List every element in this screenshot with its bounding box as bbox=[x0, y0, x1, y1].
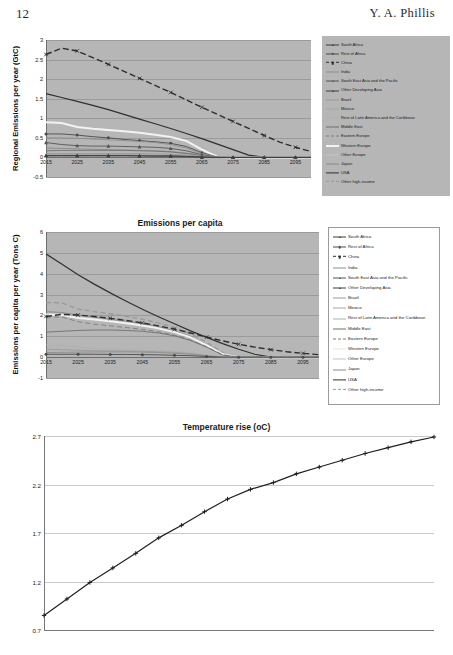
plot-area-regional-emissions: 32.521.510.50-0.520152025203520452055206… bbox=[46, 40, 311, 177]
legend-label: Brazil bbox=[348, 296, 359, 300]
legend-item[interactable]: Other high-income bbox=[333, 385, 436, 395]
legend-item[interactable]: Rest of Latin America and the Caribbean bbox=[326, 114, 447, 123]
legend-item[interactable]: Mexico bbox=[326, 104, 447, 113]
legend-item[interactable]: Other Europe bbox=[333, 354, 436, 364]
y-axis-tick-label: 2 bbox=[40, 312, 43, 318]
legend-line bbox=[333, 328, 346, 329]
legend-swatch bbox=[333, 356, 346, 362]
legend-regional-emissions: South AfricaRest of AfricaChinaIndiaSout… bbox=[322, 36, 450, 196]
legend-item[interactable]: Western Europe bbox=[326, 141, 447, 150]
legend-swatch bbox=[326, 133, 339, 139]
legend-marker bbox=[332, 80, 334, 82]
legend-line bbox=[333, 338, 346, 339]
series-layer bbox=[46, 232, 319, 378]
data-point-marker bbox=[386, 445, 390, 449]
legend-swatch bbox=[333, 275, 346, 281]
data-point-marker bbox=[45, 132, 48, 135]
legend-item[interactable]: Eastern Europe bbox=[333, 334, 436, 344]
legend-line bbox=[326, 181, 339, 183]
legend-swatch bbox=[326, 60, 339, 66]
legend-swatch bbox=[326, 124, 339, 130]
legend-label: Rest of Latin America and the Caribbean bbox=[341, 116, 415, 120]
legend-marker bbox=[331, 62, 334, 65]
legend-item[interactable]: Rest of Africa bbox=[333, 242, 436, 252]
y-axis-tick-label: 2.2 bbox=[32, 481, 41, 488]
data-point-marker bbox=[269, 356, 272, 359]
legend-marker bbox=[339, 236, 341, 238]
legend-item[interactable]: Other Developing Asia bbox=[333, 283, 436, 293]
legend-swatch bbox=[333, 326, 346, 332]
legend-swatch bbox=[333, 367, 346, 373]
legend-item[interactable]: South East Asia and the Pacific bbox=[333, 273, 436, 283]
legend-item[interactable]: China bbox=[333, 252, 436, 262]
legend-item[interactable]: Mexico bbox=[333, 303, 436, 313]
y-axis-tick-label: 1 bbox=[40, 333, 43, 339]
legend-label: Eastern Europe bbox=[348, 337, 378, 341]
legend-item[interactable]: Other Developing Asia bbox=[326, 86, 447, 95]
figure-regional-emissions: Regional Emissions per year (GtC) 32.521… bbox=[0, 32, 453, 217]
legend-line bbox=[333, 267, 346, 268]
legend-item[interactable]: Rest of Africa bbox=[326, 49, 447, 58]
legend-item[interactable]: Other Europe bbox=[326, 150, 447, 159]
legend-marker bbox=[339, 277, 341, 279]
legend-item[interactable]: Middle East bbox=[326, 123, 447, 132]
data-point-marker bbox=[432, 435, 436, 439]
legend-item[interactable]: Brazil bbox=[333, 293, 436, 303]
legend-line bbox=[333, 348, 346, 350]
data-point-marker bbox=[173, 354, 176, 357]
data-point-marker bbox=[248, 487, 252, 491]
y-axis-tick-label: 1.2 bbox=[32, 578, 41, 585]
legend-label: Other Developing Asia bbox=[341, 88, 382, 92]
legend-line bbox=[326, 99, 339, 100]
legend-line bbox=[326, 108, 339, 109]
legend-item[interactable]: South Africa bbox=[326, 40, 447, 49]
running-head-author: Y. A. Phillis bbox=[370, 6, 435, 21]
legend-item[interactable]: Rest of Latin America and the Caribbean bbox=[333, 314, 436, 324]
legend-item[interactable]: South East Asia and the Pacific bbox=[326, 77, 447, 86]
legend-item[interactable]: South Africa bbox=[333, 232, 436, 242]
legend-item[interactable]: India bbox=[333, 263, 436, 273]
plot-area-emissions-per-capita: 6543210-12015202520352045205520652075208… bbox=[46, 232, 319, 378]
legend-swatch bbox=[333, 316, 346, 322]
legend-item[interactable]: Eastern Europe bbox=[326, 132, 447, 141]
y-axis-tick-label: 6 bbox=[40, 229, 43, 235]
chart-title-temperature-rise: Temperature rise (oC) bbox=[0, 422, 453, 432]
legend-label: Mexico bbox=[348, 306, 362, 310]
legend-item[interactable]: China bbox=[326, 58, 447, 67]
data-point-marker bbox=[225, 497, 229, 501]
legend-item[interactable]: India bbox=[326, 68, 447, 77]
legend-item[interactable]: Other high-income bbox=[326, 178, 447, 187]
y-axis-tick-label: 1 bbox=[40, 115, 43, 121]
legend-line bbox=[326, 173, 339, 174]
legend-swatch bbox=[326, 97, 339, 103]
legend-line bbox=[326, 145, 339, 147]
legend-item[interactable]: Brazil bbox=[326, 95, 447, 104]
legend-label: India bbox=[341, 70, 350, 74]
legend-item[interactable]: USA bbox=[333, 375, 436, 385]
legend-swatch bbox=[326, 78, 339, 84]
y-axis-tick-label: 1.5 bbox=[35, 96, 43, 102]
legend-item[interactable]: Western Europe bbox=[333, 344, 436, 354]
legend-label: Japan bbox=[348, 367, 360, 371]
y-axis-tick-label: -1 bbox=[38, 375, 43, 381]
legend-line bbox=[333, 359, 346, 360]
legend-label: Eastern Europe bbox=[341, 134, 369, 138]
y-axis-tick-label: 3 bbox=[40, 37, 43, 43]
legend-label: USA bbox=[341, 171, 349, 175]
legend-label: Rest of Africa bbox=[341, 52, 365, 56]
legend-swatch bbox=[326, 88, 339, 94]
legend-line bbox=[326, 154, 339, 155]
legend-label: Other Europe bbox=[348, 357, 374, 361]
y-axis-tick-label: 2.5 bbox=[35, 57, 43, 63]
legend-label: Western Europe bbox=[341, 144, 371, 148]
y-axis-tick-label: 4 bbox=[40, 271, 43, 277]
legend-item[interactable]: Japan bbox=[333, 364, 436, 374]
legend-label: China bbox=[341, 61, 352, 65]
legend-item[interactable]: USA bbox=[326, 169, 447, 178]
data-point-marker bbox=[77, 353, 80, 356]
legend-item[interactable]: Japan bbox=[326, 159, 447, 168]
legend-item[interactable]: Middle East bbox=[333, 324, 436, 334]
axis-label-y-fig1: Regional Emissions per year (GtC) bbox=[11, 40, 20, 177]
series-layer bbox=[44, 436, 434, 630]
y-axis-tick-label: 3 bbox=[40, 292, 43, 298]
